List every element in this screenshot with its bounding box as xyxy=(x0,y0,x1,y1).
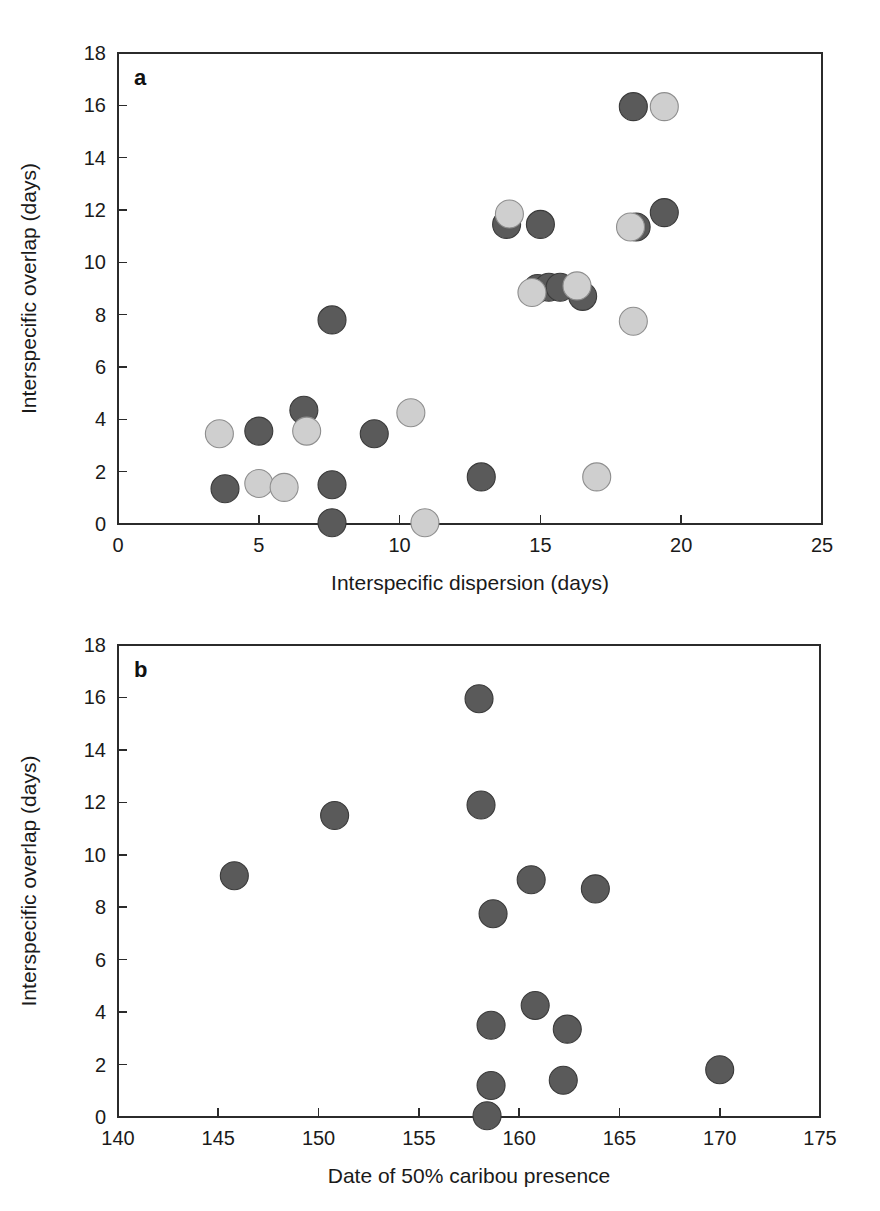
x-tick-label: 15 xyxy=(529,534,551,556)
data-point-light xyxy=(563,272,591,300)
x-tick-label: 0 xyxy=(112,534,123,556)
y-axis-title: Interspecific overlap (days) xyxy=(17,163,40,414)
data-point-dark xyxy=(477,1072,505,1100)
data-point-light xyxy=(518,278,546,306)
y-tick-label: 16 xyxy=(84,686,106,708)
x-tick-label: 25 xyxy=(811,534,833,556)
x-tick-label: 170 xyxy=(703,1127,736,1149)
y-tick-label: 2 xyxy=(95,1054,106,1076)
data-point-light xyxy=(583,463,611,491)
x-tick-label: 155 xyxy=(402,1127,435,1149)
data-point-dark xyxy=(477,1011,505,1039)
x-axis-title: Date of 50% caribou presence xyxy=(328,1164,611,1187)
data-point-light xyxy=(293,417,321,445)
panel-a-plot: 0510152025024681012141618aInterspecific … xyxy=(0,0,880,600)
y-tick-label: 10 xyxy=(84,251,106,273)
data-point-light xyxy=(495,200,523,228)
data-point-light xyxy=(205,420,233,448)
y-tick-label: 8 xyxy=(95,304,106,326)
data-point-light xyxy=(245,469,273,497)
data-point-dark xyxy=(211,475,239,503)
y-tick-label: 18 xyxy=(84,634,106,656)
x-tick-label: 150 xyxy=(302,1127,335,1149)
data-point-dark xyxy=(549,1066,577,1094)
panel-letter: b xyxy=(134,657,147,682)
figure-container: 0510152025024681012141618aInterspecific … xyxy=(0,0,880,1211)
data-point-dark xyxy=(321,801,349,829)
y-tick-label: 12 xyxy=(84,791,106,813)
y-tick-label: 4 xyxy=(95,408,106,430)
data-point-dark xyxy=(517,866,545,894)
panel-b-plot: 140145150155160165170175024681012141618b… xyxy=(0,600,880,1211)
y-tick-label: 14 xyxy=(84,739,106,761)
data-point-dark xyxy=(318,471,346,499)
data-point-light xyxy=(650,93,678,121)
x-tick-label: 140 xyxy=(101,1127,134,1149)
y-tick-label: 16 xyxy=(84,94,106,116)
data-point-dark xyxy=(581,875,609,903)
data-point-light xyxy=(619,307,647,335)
data-point-dark xyxy=(706,1056,734,1084)
y-tick-label: 8 xyxy=(95,896,106,918)
y-tick-label: 12 xyxy=(84,199,106,221)
y-tick-label: 14 xyxy=(84,147,106,169)
data-point-dark xyxy=(360,420,388,448)
x-tick-label: 160 xyxy=(502,1127,535,1149)
data-point-light xyxy=(617,213,645,241)
data-point-light xyxy=(270,473,298,501)
y-tick-label: 18 xyxy=(84,42,106,64)
data-point-dark xyxy=(318,306,346,334)
y-tick-label: 6 xyxy=(95,356,106,378)
y-tick-label: 0 xyxy=(95,1106,106,1128)
data-point-dark xyxy=(245,417,273,445)
y-tick-label: 10 xyxy=(84,844,106,866)
x-tick-label: 175 xyxy=(803,1127,836,1149)
x-axis-title: Interspecific dispersion (days) xyxy=(331,571,609,594)
data-point-dark xyxy=(467,791,495,819)
data-point-dark xyxy=(521,992,549,1020)
panel-a: 0510152025024681012141618aInterspecific … xyxy=(0,0,880,600)
data-point-dark xyxy=(553,1015,581,1043)
x-tick-label: 20 xyxy=(670,534,692,556)
y-tick-label: 4 xyxy=(95,1001,106,1023)
data-point-dark xyxy=(650,199,678,227)
data-point-dark xyxy=(465,685,493,713)
x-tick-label: 5 xyxy=(253,534,264,556)
y-tick-label: 6 xyxy=(95,949,106,971)
panel-letter: a xyxy=(134,65,147,90)
x-tick-label: 145 xyxy=(202,1127,235,1149)
data-point-dark xyxy=(467,463,495,491)
data-point-dark xyxy=(619,93,647,121)
y-tick-label: 0 xyxy=(95,513,106,535)
x-tick-label: 165 xyxy=(603,1127,636,1149)
x-tick-label: 10 xyxy=(388,534,410,556)
data-point-dark xyxy=(526,210,554,238)
data-point-dark xyxy=(220,862,248,890)
plot-frame xyxy=(118,53,822,524)
data-point-dark xyxy=(473,1102,501,1130)
y-axis-title: Interspecific overlap (days) xyxy=(17,756,40,1007)
y-tick-label: 2 xyxy=(95,461,106,483)
data-point-light xyxy=(411,509,439,537)
data-point-dark xyxy=(479,900,507,928)
data-point-light xyxy=(397,399,425,427)
panel-b: 140145150155160165170175024681012141618b… xyxy=(0,600,880,1211)
data-point-dark xyxy=(318,509,346,537)
